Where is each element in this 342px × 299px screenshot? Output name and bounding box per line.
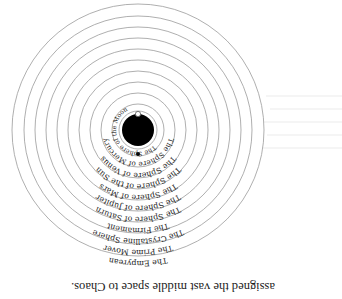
earth-icon xyxy=(122,114,154,146)
cosmos-diagram: assigned the vast middle space to Chaos. xyxy=(0,0,342,299)
label-empyrean: The Empyrean xyxy=(108,256,168,268)
caption-text: assigned the vast middle space to Chaos. xyxy=(71,280,275,294)
label-prime-mover: The Prime Mover xyxy=(102,243,174,257)
bleed-through-text xyxy=(262,95,342,149)
moon-icon xyxy=(135,111,140,116)
book-page: assigned the vast middle space to Chaos. xyxy=(0,0,342,299)
